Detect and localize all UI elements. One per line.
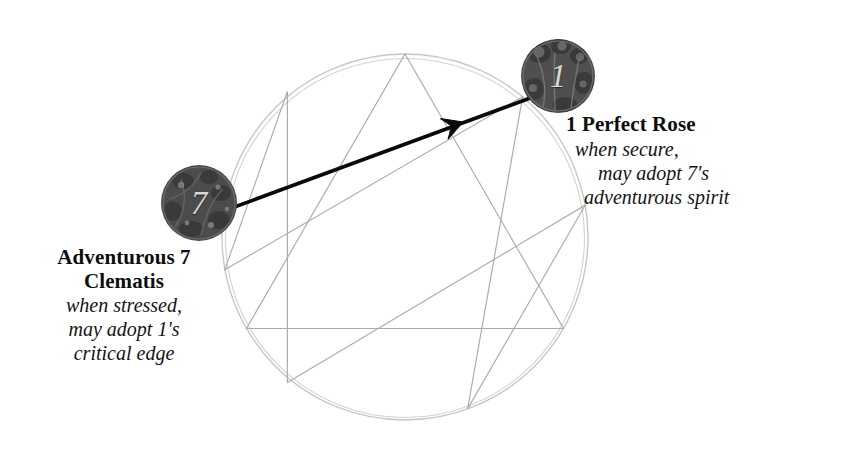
label-seven-title-line-2: Clematis bbox=[18, 270, 230, 294]
label-perfect-rose-one: 1 Perfect Rose when secure, may adopt 7'… bbox=[566, 113, 816, 209]
enneagram-hexad-142857 bbox=[225, 91, 585, 409]
enneagram-triangle-963 bbox=[247, 54, 564, 329]
badge-one: 1 bbox=[521, 39, 595, 113]
label-seven-sub-line-1: when stressed, bbox=[18, 293, 230, 317]
label-adventurous-seven: Adventurous 7 Clematis when stressed, ma… bbox=[18, 246, 230, 365]
label-one-title-line-1: 1 Perfect Rose bbox=[566, 113, 816, 137]
label-one-sub-line-2: may adopt 7's bbox=[566, 161, 816, 185]
stress-security-arrow-shaft bbox=[229, 97, 533, 209]
label-seven-title-line-1: Adventurous 7 bbox=[18, 246, 230, 270]
stress-security-arrowhead bbox=[440, 112, 466, 140]
badge-one-number: 1 bbox=[521, 39, 595, 113]
label-one-sub-line-3: adventurous spirit bbox=[566, 185, 816, 209]
label-seven-sub-line-2: may adopt 1's bbox=[18, 317, 230, 341]
enneagram-diagram: 7 bbox=[0, 0, 851, 454]
enneagram-svg bbox=[0, 0, 851, 454]
label-seven-sub-line-3: critical edge bbox=[18, 341, 230, 365]
badge-seven: 7 bbox=[161, 165, 237, 241]
label-one-sub-line-1: when secure, bbox=[566, 137, 816, 161]
badge-seven-number: 7 bbox=[161, 165, 237, 241]
